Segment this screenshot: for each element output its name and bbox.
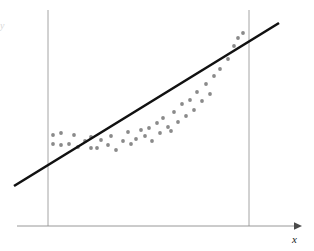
scatter-point bbox=[150, 139, 154, 143]
scatter-point bbox=[99, 138, 103, 142]
scatter-point bbox=[180, 102, 184, 106]
scatter-point bbox=[192, 108, 196, 112]
scatter-point bbox=[139, 128, 143, 132]
scatter-point bbox=[200, 99, 204, 103]
scatter-point bbox=[126, 130, 130, 134]
scatter-point bbox=[51, 142, 55, 146]
scatter-point bbox=[212, 74, 216, 78]
scatter-point bbox=[59, 143, 63, 147]
scatter-point bbox=[114, 148, 118, 152]
scatter-point bbox=[166, 125, 170, 129]
x-axis-label: x bbox=[292, 234, 297, 245]
plot-canvas bbox=[0, 0, 314, 251]
scatter-points-group bbox=[51, 31, 245, 152]
scatter-point bbox=[172, 110, 176, 114]
scatter-point bbox=[218, 67, 222, 71]
scatter-point bbox=[241, 31, 245, 35]
least-squares-fit-line bbox=[14, 23, 279, 186]
scatter-point bbox=[121, 139, 125, 143]
scatter-point bbox=[184, 114, 188, 118]
scatter-point bbox=[143, 134, 147, 138]
scatter-point bbox=[147, 126, 151, 130]
scatter-point bbox=[158, 131, 162, 135]
x-axis-arrowhead-icon bbox=[294, 222, 302, 230]
scatter-point bbox=[67, 142, 71, 146]
x-axis-group bbox=[17, 222, 302, 230]
scatter-point bbox=[89, 146, 93, 150]
scatter-plot-figure: y x bbox=[0, 0, 314, 251]
scatter-point bbox=[204, 82, 208, 86]
scatter-point bbox=[51, 133, 55, 137]
scatter-point bbox=[155, 121, 159, 125]
scatter-point bbox=[59, 131, 63, 135]
reference-lines-group bbox=[48, 10, 249, 226]
scatter-point bbox=[208, 92, 212, 96]
scatter-point bbox=[226, 57, 230, 61]
scatter-point bbox=[176, 120, 180, 124]
y-axis-label: y bbox=[0, 21, 4, 31]
scatter-point bbox=[161, 116, 165, 120]
scatter-point bbox=[95, 146, 99, 150]
scatter-point bbox=[236, 36, 240, 40]
scatter-point bbox=[169, 129, 173, 133]
scatter-point bbox=[195, 90, 199, 94]
scatter-point bbox=[129, 142, 133, 146]
scatter-point bbox=[109, 134, 113, 138]
scatter-point bbox=[106, 143, 110, 147]
scatter-point bbox=[134, 137, 138, 141]
scatter-point bbox=[188, 98, 192, 102]
scatter-point bbox=[72, 133, 76, 137]
scatter-point bbox=[232, 44, 236, 48]
